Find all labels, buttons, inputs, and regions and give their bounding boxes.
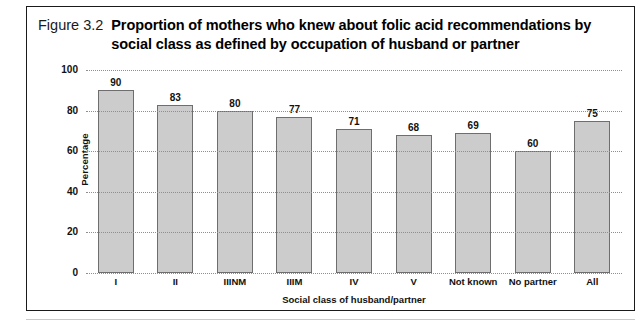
bar-value-label: 90 <box>86 77 146 88</box>
bar-value-label: 71 <box>324 116 384 127</box>
gridline <box>86 111 622 112</box>
gridline <box>86 273 622 274</box>
bar-series: 908380777168696075 <box>86 70 622 273</box>
x-axis-tick-label: IIINM <box>205 276 265 287</box>
bar-value-label: 80 <box>205 98 265 109</box>
bar[interactable] <box>455 133 491 273</box>
y-axis-tick-label: 40 <box>40 186 78 197</box>
x-axis-tick-label: All <box>563 276 623 287</box>
gridline <box>86 151 622 152</box>
gridline <box>86 70 622 71</box>
x-axis-label: Social class of husband/partner <box>86 294 622 305</box>
bar[interactable] <box>98 90 134 273</box>
plot-wrapper: Percentage 908380777168696075 0204060801… <box>38 62 626 307</box>
bar-value-label: 69 <box>443 120 503 131</box>
bar-slot: 75 <box>563 70 623 273</box>
x-axis-tick-label: IV <box>324 276 384 287</box>
y-axis-tick-label: 100 <box>40 64 78 75</box>
figure-container: Figure 3.2 Proportion of mothers who kne… <box>0 0 643 325</box>
bar-value-label: 60 <box>503 138 563 149</box>
figure-title-block: Figure 3.2 Proportion of mothers who kne… <box>38 16 608 54</box>
x-axis-tick-label: IIIM <box>265 276 325 287</box>
bar[interactable] <box>396 135 432 273</box>
x-axis-tick-label: I <box>86 276 146 287</box>
x-axis-tick-labels: IIIIIINMIIIMIVVNot knownNo partnerAll <box>86 276 622 287</box>
bar-slot: 69 <box>443 70 503 273</box>
bar-value-label: 75 <box>562 108 622 119</box>
y-axis-tick-label: 0 <box>40 267 78 278</box>
bar-slot: 60 <box>503 70 563 273</box>
y-axis-tick-label: 60 <box>40 145 78 156</box>
gridline <box>86 192 622 193</box>
bar-value-label: 68 <box>384 122 444 133</box>
x-axis-tick-label: V <box>384 276 444 287</box>
x-axis-tick-label: No partner <box>503 276 563 287</box>
bar-slot: 90 <box>86 70 146 273</box>
x-axis-tick-label: Not known <box>443 276 503 287</box>
bar[interactable] <box>276 117 312 273</box>
y-axis-tick-label: 80 <box>40 105 78 116</box>
bar-value-label: 77 <box>264 104 324 115</box>
x-axis-tick-label: II <box>146 276 206 287</box>
bar-slot: 71 <box>324 70 384 273</box>
bar-slot: 80 <box>205 70 265 273</box>
bar[interactable] <box>515 151 551 273</box>
bar-slot: 68 <box>384 70 444 273</box>
figure-title: Proportion of mothers who knew about fol… <box>111 16 608 54</box>
bar-slot: 77 <box>265 70 325 273</box>
figure-bottom-rule <box>26 319 635 320</box>
figure-number: Figure 3.2 <box>38 16 111 35</box>
plot-area: 908380777168696075 020406080100 <box>86 70 622 273</box>
bar-slot: 83 <box>146 70 206 273</box>
bar[interactable] <box>574 121 610 273</box>
y-axis-tick-label: 20 <box>40 226 78 237</box>
gridline <box>86 232 622 233</box>
bar[interactable] <box>157 105 193 273</box>
bar-value-label: 83 <box>145 92 205 103</box>
